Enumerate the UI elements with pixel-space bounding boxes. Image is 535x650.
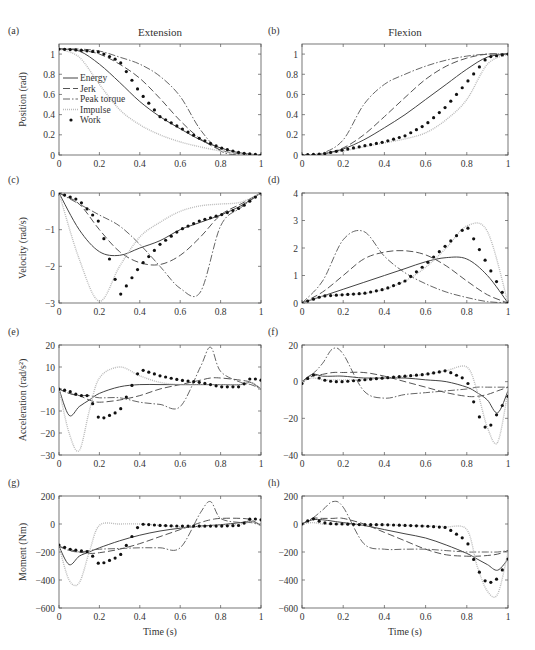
panel-label: (a) [8,25,19,37]
work-marker [85,550,88,553]
work-marker [102,561,105,564]
work-marker [443,106,446,109]
work-marker [158,243,161,246]
work-marker [381,523,384,526]
x-tick-label: 0.8 [215,307,227,317]
panels: (a)00.20.40.60.8100.20.40.60.81Position … [8,25,511,638]
x-tick-label: 0.6 [174,459,186,469]
panel-label: (h) [268,477,280,489]
work-marker [142,369,145,372]
work-marker [409,131,412,134]
work-marker [63,389,66,392]
x-tick-label: 0 [57,159,62,169]
work-marker [130,79,133,82]
work-marker [186,379,189,382]
x-tick-label: 0.4 [134,459,146,469]
column-title-extension-text: Extension [138,26,182,38]
work-marker [231,209,234,212]
work-marker [198,219,201,222]
panel-e: (e)00.20.40.60.81−30−20−1001020Accelerat… [8,326,264,469]
work-marker [158,374,161,377]
work-marker [69,195,72,198]
series-work-markers [57,369,262,420]
work-marker [243,204,246,207]
work-marker [363,292,366,295]
work-marker [398,136,401,139]
work-marker [108,257,111,260]
work-marker [312,298,315,301]
work-marker [506,301,509,304]
x-tick-label: 0.2 [337,159,349,169]
work-marker [421,266,424,269]
x-tick-label: 0 [57,307,62,317]
plot-area [57,191,262,301]
work-marker [352,292,355,295]
work-marker [443,526,446,529]
x-tick-label: 0.2 [93,307,105,317]
work-marker [472,72,475,75]
x-tick-label: 0.2 [93,612,105,622]
work-marker [226,524,229,527]
work-marker [346,523,349,526]
work-marker [300,153,303,156]
work-marker [306,153,309,156]
work-marker [57,387,60,390]
x-tick-label: 1 [506,159,511,169]
x-tick-label: 1 [259,159,264,169]
work-marker [318,520,321,523]
y-tick-label: −600 [278,604,298,614]
work-marker [363,523,366,526]
work-marker [455,234,458,237]
work-marker [461,229,464,232]
y-tick-label: 0 [293,520,298,530]
work-marker [226,385,229,388]
work-marker [74,198,77,201]
x-tick-label: 0.2 [93,459,105,469]
work-marker [432,116,435,119]
work-marker [170,121,173,124]
work-marker [484,58,487,61]
series-energy-line [302,519,508,570]
y-tick-label: 20 [46,341,56,351]
work-marker [438,250,441,253]
work-marker [392,138,395,141]
panel-h: (h)00.20.40.60.81−600−400−2000200Time (s… [268,477,511,638]
work-marker [312,153,315,156]
work-marker [158,524,161,527]
work-marker [409,374,412,377]
work-marker [506,557,509,560]
work-marker [318,376,321,379]
x-tick-label: 0 [300,307,305,317]
x-tick-label: 0.6 [420,159,432,169]
work-marker [125,284,128,287]
panel-label: (e) [8,326,19,338]
plot-area [300,348,509,444]
work-marker [363,378,366,381]
y-tick-label: −20 [283,414,298,424]
work-marker [472,400,475,403]
work-marker [352,379,355,382]
work-marker [403,375,406,378]
panel-d: (d)00.20.40.60.8101234 [268,174,511,317]
work-marker [170,524,173,527]
work-marker [461,86,464,89]
panel-label: (d) [268,174,280,186]
work-marker [375,289,378,292]
work-marker [426,372,429,375]
work-marker [501,404,504,407]
y-tick-label: 20 [289,341,299,351]
work-marker [203,525,206,528]
work-marker [489,423,492,426]
work-marker [97,416,100,419]
panel-label: (g) [8,477,20,489]
work-marker [466,227,469,230]
work-marker [63,193,66,196]
work-marker [323,379,326,382]
x-tick-label: 0.6 [420,307,432,317]
work-marker [85,207,88,210]
work-marker [237,524,240,527]
work-marker [375,377,378,380]
x-tick-label: 0.4 [134,612,146,622]
y-tick-label: −3 [45,299,55,309]
y-tick-label: 1 [293,50,298,60]
